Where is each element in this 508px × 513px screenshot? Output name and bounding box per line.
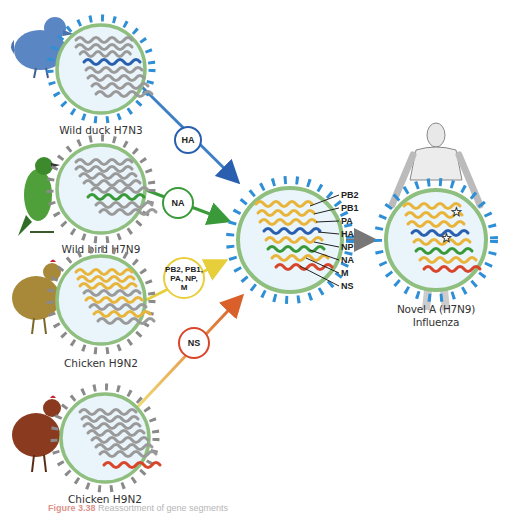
bubble-internal-genes: PB2, PB1, PA, NP, M: [163, 257, 205, 299]
virion-reassortant: [230, 180, 350, 300]
label-wild-duck: Wild duck H7N3: [59, 124, 143, 136]
virion-chicken-2: [54, 387, 160, 489]
label-novel-line2: Influenza: [396, 316, 476, 329]
bubble-ns: NS: [178, 327, 210, 359]
virion-wild-bird: [50, 138, 156, 240]
figure-caption: Figure 3.38 Reassortment of gene segment…: [48, 503, 228, 513]
label-novel-line1: Novel A (H7N9): [396, 303, 476, 316]
bubble-internal-line3: M: [181, 283, 188, 292]
segment-label-m: M: [341, 268, 349, 278]
segment-label-pa: PA: [341, 216, 353, 226]
bubble-internal-line1: PB2, PB1,: [165, 265, 203, 274]
segment-label-ns: NS: [341, 281, 354, 291]
svg-text:★: ★: [441, 231, 452, 245]
caption-text: Reassortment of gene segments: [98, 503, 228, 513]
bubble-internal-line2: PA, NP,: [170, 274, 197, 283]
label-chicken-1: Chicken H9N2: [64, 357, 138, 369]
caption-figure-number: Figure 3.38: [48, 503, 96, 513]
bubble-ha: HA: [174, 126, 202, 154]
segment-label-np: NP: [341, 242, 354, 252]
virion-chicken-1: [50, 249, 154, 351]
label-novel-h7n9: Novel A (H7N9) Influenza: [396, 303, 476, 329]
segment-label-na: NA: [341, 255, 354, 265]
label-wild-bird: Wild bird H7N9: [62, 243, 141, 255]
svg-text:★: ★: [451, 205, 462, 219]
bubble-na: NA: [162, 187, 194, 219]
segment-label-pb1: PB1: [341, 203, 359, 213]
chicken-illustration-2: [12, 396, 61, 473]
segment-label-ha: HA: [341, 229, 354, 239]
segment-label-pb2: PB2: [341, 190, 359, 200]
chicken-illustration-1: [12, 260, 61, 335]
